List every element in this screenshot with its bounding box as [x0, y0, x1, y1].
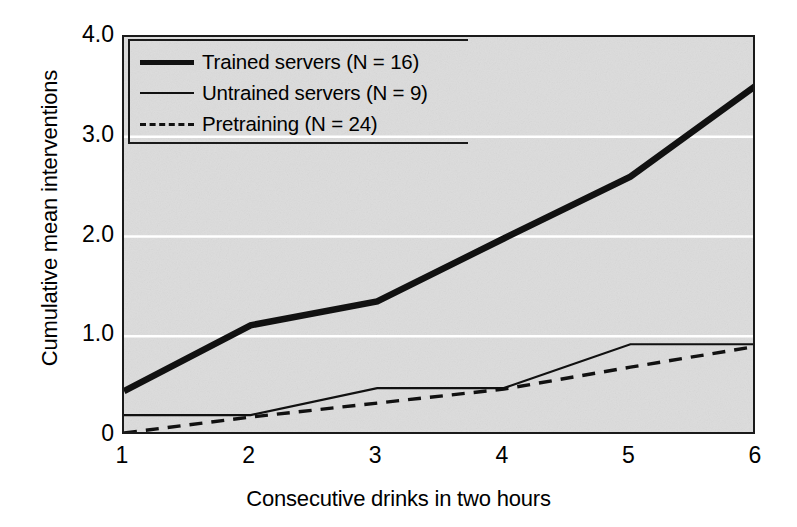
legend-line-swatch	[138, 53, 196, 71]
x-tick-label: 1	[102, 444, 142, 467]
y-tick-label: 2.0	[54, 223, 114, 246]
legend-line-swatch	[138, 84, 196, 102]
series-line	[124, 344, 755, 415]
x-axis-tick-labels: 123456	[0, 444, 797, 474]
legend-item[interactable]: Untrained servers (N = 9)	[138, 78, 428, 108]
y-tick-label: 4.0	[54, 23, 114, 46]
y-tick-label: 0	[54, 422, 114, 445]
line-chart-figure: Cumulative mean interventions 4.03.02.01…	[0, 0, 797, 527]
x-tick-label: 2	[229, 444, 269, 467]
x-tick-label: 5	[608, 444, 648, 467]
x-tick-label: 6	[735, 444, 775, 467]
legend-item[interactable]: Pretraining (N = 24)	[138, 109, 377, 139]
x-tick-label: 3	[355, 444, 395, 467]
legend-item-label: Untrained servers (N = 9)	[202, 81, 428, 105]
x-axis-title: Consecutive drinks in two hours	[0, 486, 797, 512]
series-line	[124, 346, 755, 433]
legend: Trained servers (N = 16)Untrained server…	[128, 39, 468, 144]
y-tick-label: 3.0	[54, 123, 114, 146]
legend-item[interactable]: Trained servers (N = 16)	[138, 47, 419, 77]
legend-item-label: Trained servers (N = 16)	[202, 50, 419, 74]
legend-item-label: Pretraining (N = 24)	[202, 112, 377, 136]
y-tick-label: 1.0	[54, 322, 114, 345]
x-tick-label: 4	[482, 444, 522, 467]
legend-line-swatch	[138, 115, 196, 133]
